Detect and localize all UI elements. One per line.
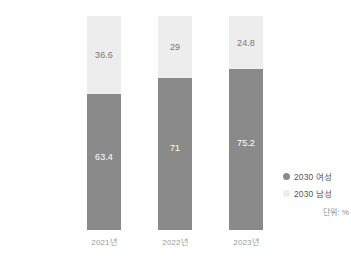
stacked-bar-chart: 36.6 63.4 2021년 29 71 2022년 [0,0,351,268]
bar-value-label: 24.8 [237,38,255,47]
bar-value-label: 36.6 [95,51,113,60]
unit-note: 단위: % [283,206,351,217]
bar-value-label: 75.2 [237,139,255,148]
bar-segment-male[interactable]: 29 [158,16,192,78]
bar-segment-male[interactable]: 36.6 [87,16,121,94]
bar-segment-female[interactable]: 63.4 [87,94,121,230]
legend-item-female[interactable]: 2030 여성 [283,170,351,182]
x-axis-tick-label: 2022년 [150,236,200,247]
bar-stack: 24.8 75.2 [229,16,263,230]
bar-stack: 36.6 63.4 [87,16,121,230]
x-axis-tick-label: 2021년 [79,236,129,247]
legend-item-male[interactable]: 2030 남성 [283,187,351,199]
legend-item-label: 2030 여성 [294,170,332,182]
bar-segment-female[interactable]: 71 [158,78,192,230]
bar-stack: 29 71 [158,16,192,230]
x-axis-tick-label: 2023년 [221,236,271,247]
legend-swatch-icon [283,173,290,180]
bar-value-label: 63.4 [95,152,113,161]
legend-swatch-icon [283,190,290,197]
legend-item-label: 2030 남성 [294,187,332,199]
bar-segment-female[interactable]: 75.2 [229,69,263,230]
bar-value-label: 29 [170,43,180,52]
plot-area: 36.6 63.4 2021년 29 71 2022년 [0,0,280,268]
bar-value-label: 71 [170,143,180,152]
bar-segment-male[interactable]: 24.8 [229,16,263,69]
chart-legend: 2030 여성 2030 남성 단위: % [283,170,351,217]
